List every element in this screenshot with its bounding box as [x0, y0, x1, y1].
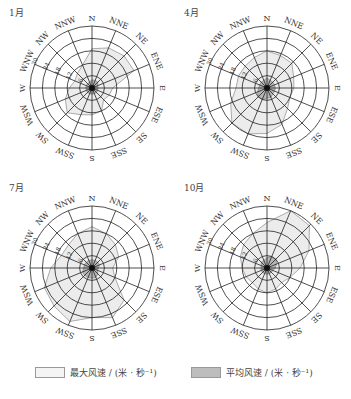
- wind-rose-chart: NNNENEENEEESESESSESSSWSWWSWWWNWNWNNW6121…: [175, 175, 350, 360]
- legend-item-max: 最大风速 / (米 · 秒⁻¹): [35, 366, 157, 379]
- legend: 最大风速 / (米 · 秒⁻¹) 平均风速 / (米 · 秒⁻¹): [0, 366, 351, 382]
- month-label: 10月: [184, 181, 204, 194]
- center-dot: [89, 265, 95, 271]
- direction-label: SE: [309, 310, 323, 324]
- direction-label: N: [264, 194, 271, 203]
- month-label: 4月: [184, 6, 199, 19]
- direction-label: N: [264, 14, 271, 23]
- direction-label: E: [333, 85, 342, 91]
- legend-label-avg: 平均风速 / (米 · 秒⁻¹): [226, 366, 313, 379]
- month-label: 7月: [9, 181, 24, 194]
- wind-rose-chart: NNNENEENEEESESESSESSSWSWWSWWWNWNWNNW6121…: [0, 175, 175, 360]
- ring-tick-label: 12: [64, 71, 73, 81]
- legend-swatch-max: [35, 367, 65, 378]
- wind-rose-panel-apr: NNNENEENEEESESESSESSSWSWWSWWWNWNWNNW6121…: [175, 0, 350, 180]
- legend-item-avg: 平均风速 / (米 · 秒⁻¹): [191, 366, 313, 379]
- direction-label: NNW: [228, 15, 253, 32]
- direction-label: NNW: [53, 195, 78, 212]
- direction-label: WSW: [194, 102, 211, 126]
- center-dot: [264, 265, 270, 271]
- wind-rose-panel-oct: NNNENEENEEESESESSESSSWSWWSWWWNWNWNNW6121…: [175, 175, 350, 355]
- direction-label: SE: [134, 310, 148, 324]
- month-label: 1月: [9, 6, 24, 19]
- direction-label: SSE: [284, 325, 303, 340]
- direction-label: S: [264, 334, 269, 343]
- direction-label: SSE: [109, 325, 128, 340]
- direction-label: WSW: [19, 102, 36, 126]
- wind-rose-chart: NNNENEENEEESESESSESSSWSWWSWWWNWNWNNW6121…: [175, 0, 350, 180]
- direction-label: W: [193, 263, 202, 272]
- direction-label: SSE: [284, 145, 303, 160]
- legend-swatch-avg: [191, 367, 221, 378]
- center-dot: [89, 85, 95, 91]
- direction-label: W: [18, 83, 27, 92]
- wind-rose-panel-jan: NNNENEENEEESESESSESSSWSWWSWWWNWNWNNW6121…: [0, 0, 175, 180]
- wind-rose-chart: NNNENEENEEESESESSESSSWSWWSWWWNWNWNNW6121…: [0, 0, 175, 180]
- direction-label: E: [333, 265, 342, 271]
- direction-label: S: [89, 154, 94, 163]
- direction-label: SSE: [109, 145, 128, 160]
- direction-label: NNW: [53, 15, 78, 32]
- legend-label-max: 最大风速 / (米 · 秒⁻¹): [70, 366, 157, 379]
- direction-label: S: [264, 154, 269, 163]
- direction-label: ESE: [149, 105, 164, 124]
- direction-label: N: [89, 14, 96, 23]
- direction-label: SE: [309, 130, 323, 144]
- direction-label: ESE: [149, 285, 164, 304]
- direction-label: E: [158, 265, 167, 271]
- direction-label: WSW: [19, 282, 36, 306]
- wind-rose-panel-jul: NNNENEENEEESESESSESSSWSWWSWWWNWNWNNW6121…: [0, 175, 175, 355]
- direction-label: N: [89, 194, 96, 203]
- direction-label: NNW: [228, 195, 253, 212]
- direction-label: WSW: [194, 282, 211, 306]
- center-dot: [264, 85, 270, 91]
- direction-label: W: [193, 83, 202, 92]
- direction-label: W: [18, 263, 27, 272]
- direction-label: ESE: [324, 285, 339, 304]
- direction-label: S: [89, 334, 94, 343]
- direction-label: ESE: [324, 105, 339, 124]
- direction-label: E: [158, 85, 167, 91]
- direction-label: SE: [134, 130, 148, 144]
